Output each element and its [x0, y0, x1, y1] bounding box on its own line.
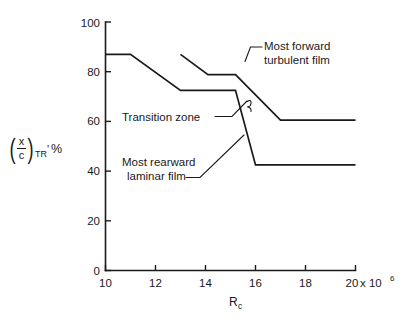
x-axis-tick-labels: 10 12 14 16 18 20 x 10 6 — [99, 274, 395, 289]
transition-zone-brace-icon — [248, 101, 252, 112]
annotation-transition-zone-line1: Transition zone — [122, 111, 200, 123]
x-axis-multiplier-exponent: 6 — [390, 274, 395, 283]
y-tick-label-40: 40 — [87, 165, 100, 177]
y-tick-label-20: 20 — [87, 215, 100, 227]
y-axis-title: (xc)TR'% — [8, 128, 76, 170]
y-axis-title-prime: ' — [47, 144, 49, 155]
y-axis-ticks — [106, 22, 112, 271]
x-tick-label-10: 10 — [99, 277, 112, 289]
y-axis-title-unit: % — [51, 143, 62, 156]
y-axis-title-subscript: TR — [35, 150, 47, 159]
annotation-most-forward-turbulent-film-line1: Most forward — [264, 40, 330, 52]
y-tick-label-100: 100 — [81, 17, 100, 29]
y-tick-label-0: 0 — [94, 265, 100, 277]
x-axis-title: R c — [229, 295, 243, 311]
annotation-transition-zone: Transition zone — [122, 111, 200, 123]
x-tick-label-12: 12 — [149, 277, 162, 289]
x-tick-label-20: 20 — [346, 277, 359, 289]
x-tick-label-16: 16 — [249, 277, 262, 289]
y-axis-title-close-paren: ) — [27, 136, 33, 163]
annotation-most-forward-turbulent-film-line2: turbulent film — [264, 54, 330, 66]
x-tick-label-18: 18 — [299, 277, 312, 289]
y-tick-label-80: 80 — [87, 66, 100, 78]
x-axis-ticks — [106, 265, 356, 271]
annotation-most-forward-turbulent-film: Most forward turbulent film — [264, 40, 330, 66]
x-axis-multiplier: x 10 — [360, 277, 382, 289]
y-axis-title-numerator: x — [18, 136, 26, 147]
y-axis-title-open-paren: ( — [9, 136, 15, 163]
x-axis-title-base: R — [229, 295, 238, 309]
annotation-most-rearward-laminar-film-line2: laminar film — [127, 170, 186, 182]
annotation-most-rearward-laminar-film-line1: Most rearward — [122, 156, 196, 168]
annotation-most-rearward-laminar-film: Most rearward laminar film — [122, 156, 196, 182]
y-axis-title-fraction: xc — [17, 136, 26, 161]
leader-most-forward-turbulent-film — [245, 47, 262, 62]
chart-figure: 0 20 40 60 80 100 10 12 14 16 18 20 x 10… — [0, 0, 409, 319]
y-axis-title-denominator: c — [18, 150, 26, 161]
x-axis-title-subscript: c — [238, 301, 243, 311]
y-axis-tick-labels: 0 20 40 60 80 100 — [81, 17, 100, 277]
x-tick-label-14: 14 — [199, 277, 212, 289]
y-tick-label-60: 60 — [87, 115, 100, 127]
